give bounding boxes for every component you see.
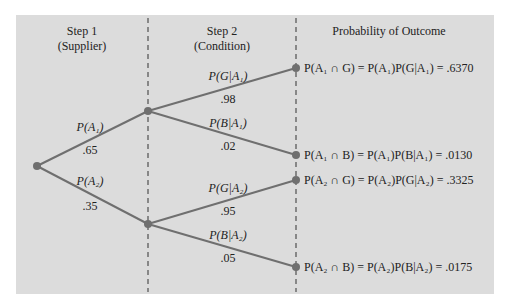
value-b-a2: .05 xyxy=(221,251,236,265)
value-g-a1: .98 xyxy=(221,92,236,106)
outcome-a1-g: P(A₁ ∩ G) = P(A₁)P(G|A₁) = .6370 xyxy=(304,61,473,75)
node-a1 xyxy=(144,107,152,115)
outcome-header: Probability of Outcome xyxy=(332,24,445,38)
step1-subtitle: (Supplier) xyxy=(58,39,107,53)
label-g-a2: P(G|A₂) xyxy=(208,181,248,195)
outcome-a1-b: P(A₁ ∩ B) = P(A₁)P(B|A₁) = .0130 xyxy=(304,148,472,162)
label-a2: P(A₂) xyxy=(76,174,104,188)
value-a1: .65 xyxy=(83,143,98,157)
label-b-a2: P(B|A₂) xyxy=(208,228,246,242)
label-g-a1: P(G|A₁) xyxy=(208,69,248,83)
value-a2: .35 xyxy=(83,199,98,213)
outcome-a2-b: P(A₂ ∩ B) = P(A₂)P(B|A₂) = .0175 xyxy=(304,260,472,274)
outcome-a2-g: P(A₂ ∩ G) = P(A₂)P(G|A₂) = .3325 xyxy=(304,173,473,187)
root-node xyxy=(33,162,41,170)
leaf-a2-b xyxy=(292,263,300,271)
label-a1: P(A₁) xyxy=(76,120,104,134)
value-b-a1: .02 xyxy=(221,139,236,153)
node-a2 xyxy=(144,220,152,228)
value-g-a2: .95 xyxy=(221,204,236,218)
probability-tree: Step 1 (Supplier) Step 2 (Condition) Pro… xyxy=(0,0,509,306)
leaf-a1-b xyxy=(292,151,300,159)
step2-title: Step 2 xyxy=(207,24,237,38)
step2-subtitle: (Condition) xyxy=(194,39,250,53)
leaf-a2-g xyxy=(292,176,300,184)
step1-title: Step 1 xyxy=(67,24,97,38)
label-b-a1: P(B|A₁) xyxy=(208,116,246,130)
leaf-a1-g xyxy=(292,64,300,72)
